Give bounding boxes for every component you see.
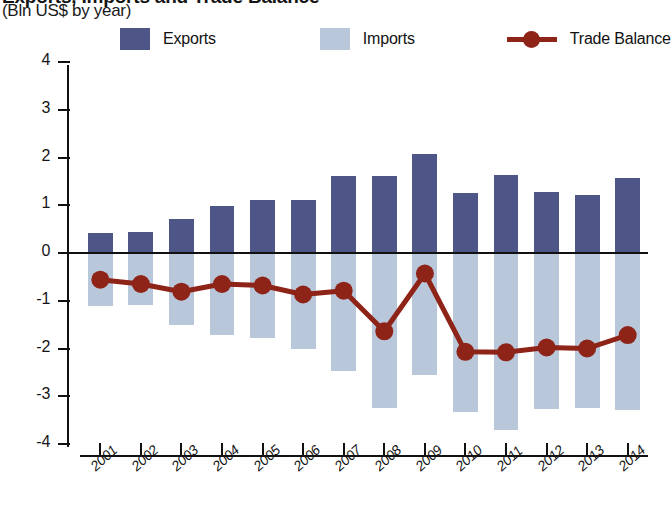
- y-axis-tick-label: 4: [10, 51, 50, 69]
- bar-exports: [453, 193, 478, 253]
- bar-exports: [372, 176, 397, 253]
- legend-label-exports: Exports: [163, 30, 216, 48]
- bar-exports: [494, 175, 519, 253]
- bar-exports: [210, 206, 235, 253]
- chart-subtitle: (Bln US$ by year): [2, 1, 131, 21]
- y-axis-tick-label: 3: [10, 99, 50, 117]
- legend-item-trade-balance: Trade Balance: [507, 28, 671, 50]
- zero-baseline: [68, 252, 648, 254]
- bar-exports: [128, 232, 153, 253]
- bar-imports: [291, 253, 316, 349]
- bar-exports: [88, 233, 113, 253]
- bar-imports: [494, 253, 519, 430]
- bar-exports: [412, 154, 437, 253]
- bar-exports: [291, 200, 316, 253]
- chart-legend: Exports Imports Trade Balance: [120, 28, 671, 50]
- bar-exports: [575, 195, 600, 253]
- bar-imports: [128, 253, 153, 305]
- exports-swatch-icon: [120, 28, 150, 50]
- bar-exports: [331, 176, 356, 253]
- legend-label-trade-balance: Trade Balance: [570, 30, 671, 48]
- legend-item-imports: Imports: [320, 28, 415, 50]
- y-axis-tick-label: 2: [10, 147, 50, 165]
- bar-imports: [534, 253, 559, 409]
- bar-imports: [412, 253, 437, 375]
- y-axis-tick-label: -3: [10, 385, 50, 403]
- legend-item-exports: Exports: [120, 28, 216, 50]
- bar-imports: [210, 253, 235, 335]
- bar-exports: [534, 192, 559, 253]
- bar-imports: [453, 253, 478, 412]
- bar-imports: [615, 253, 640, 410]
- bar-imports: [575, 253, 600, 408]
- y-axis-tick-label: 0: [10, 242, 50, 260]
- y-axis-tick-label: 1: [10, 194, 50, 212]
- bar-imports: [331, 253, 356, 371]
- bar-exports: [250, 200, 275, 253]
- imports-swatch-icon: [320, 28, 350, 50]
- plot-area: [68, 60, 648, 452]
- trade-balance-line-icon: [507, 28, 557, 50]
- y-axis-tick-label: -1: [10, 290, 50, 308]
- legend-label-imports: Imports: [363, 30, 415, 48]
- bar-imports: [88, 253, 113, 306]
- bar-imports: [169, 253, 194, 325]
- bar-exports: [169, 219, 194, 253]
- y-axis-tick-label: -4: [10, 433, 50, 451]
- bar-exports: [615, 178, 640, 253]
- bar-imports: [250, 253, 275, 338]
- bar-imports: [372, 253, 397, 408]
- y-axis-tick-label: -2: [10, 338, 50, 356]
